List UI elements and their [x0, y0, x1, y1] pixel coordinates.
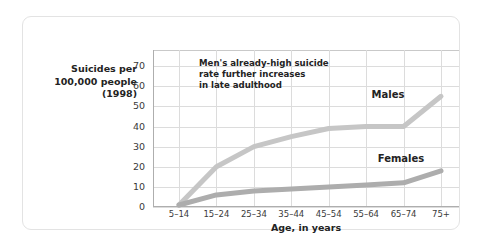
x-axis-tick-label: 35–44	[278, 209, 304, 219]
x-axis-tick-label: 65–74	[391, 209, 417, 219]
grid-line-horizontal	[153, 207, 459, 208]
y-axis-tick-label: 40	[133, 122, 145, 132]
x-axis-tick-label: 55–64	[353, 209, 379, 219]
series-line-females	[179, 171, 441, 205]
y-axis-tick-labels: 010203040506070	[23, 50, 153, 207]
y-axis-tick-label: 20	[133, 162, 145, 172]
y-axis-tick-label: 30	[133, 142, 145, 152]
annotation-line-2: rate further increases	[199, 69, 349, 80]
series-label-females: Females	[378, 153, 425, 164]
x-axis-tick-label: 45–54	[316, 209, 342, 219]
y-axis-tick-label: 60	[133, 81, 145, 91]
y-axis-tick-label: 0	[139, 202, 145, 212]
plot-area: Men's already-high suicide rate further …	[153, 50, 459, 207]
series-label-males: Males	[372, 89, 405, 100]
y-axis-tick-label: 50	[133, 102, 145, 112]
chart-figure: Suicides per 100,000 people (1998) 01020…	[22, 16, 460, 230]
x-axis-tick-label: 75+	[432, 209, 450, 219]
annotation-line-1: Men's already-high suicide	[199, 58, 349, 69]
y-axis-tick-label: 70	[133, 61, 145, 71]
x-axis-tick-label: 5–14	[169, 209, 189, 219]
x-axis-title: Age, in years	[153, 222, 459, 233]
chart-annotation: Men's already-high suicide rate further …	[199, 58, 349, 92]
y-axis-tick-label: 10	[133, 182, 145, 192]
x-axis-tick-label: 25–34	[241, 209, 267, 219]
annotation-line-3: in late adulthood	[199, 80, 349, 91]
x-axis-tick-labels: 5–1415–2425–3435–4445–5455–6465–7475+	[153, 209, 459, 223]
x-axis-tick-label: 15–24	[203, 209, 229, 219]
